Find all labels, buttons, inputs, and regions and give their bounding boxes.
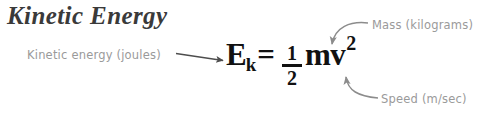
formula-equals-sign: =	[257, 38, 275, 72]
page-title: Kinetic Energy	[7, 2, 167, 30]
formula-mass-velocity: mv	[305, 38, 345, 72]
annotation-label-mass: Mass (kilograms)	[372, 18, 473, 32]
annotation-label-speed: Speed (m/sec)	[381, 92, 467, 106]
kinetic-energy-figure: Kinetic Energy Kinetic energy (joules) M…	[0, 0, 483, 116]
fraction-numerator: 1	[287, 43, 297, 63]
formula-exponent-two: 2	[346, 33, 356, 53]
arrow-energy-to-formula	[176, 54, 223, 61]
formula-subscript-k: k	[246, 55, 257, 74]
kinetic-energy-formula: E k = 1 2 mv 2	[226, 38, 356, 93]
formula-variable-E: E	[226, 38, 247, 72]
formula-fraction-one-half: 1 2	[282, 43, 302, 88]
annotation-label-kinetic-energy: Kinetic energy (joules)	[27, 48, 161, 62]
fraction-denominator: 2	[287, 68, 297, 88]
